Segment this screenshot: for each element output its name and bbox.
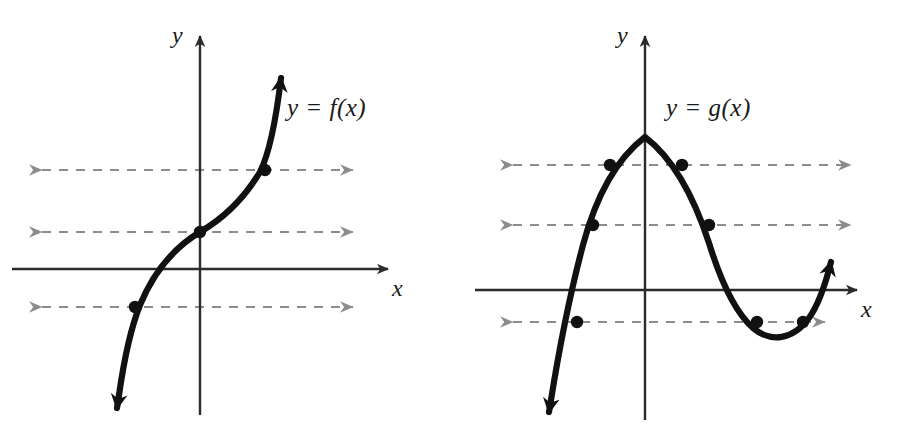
curve-label-f: y = f(x) xyxy=(287,94,366,122)
curve-f-down-arrow xyxy=(117,395,119,408)
intersection-point xyxy=(129,301,141,313)
x-axis-label-f: x xyxy=(392,275,403,302)
intersection-point xyxy=(797,316,809,328)
intersection-point xyxy=(194,226,206,238)
graph-panel-g: y = g(x) y x xyxy=(453,0,905,447)
graph-svg-f xyxy=(0,0,452,447)
intersection-point xyxy=(259,164,271,176)
curve-g xyxy=(551,137,831,400)
curve-label-g: y = g(x) xyxy=(666,94,751,122)
intersection-point xyxy=(571,316,583,328)
y-axis-label-f: y xyxy=(172,22,183,49)
intersection-point xyxy=(703,219,715,231)
intersection-point xyxy=(587,219,599,231)
intersection-point xyxy=(604,159,616,171)
y-axis-label-g: y xyxy=(617,22,628,49)
graph-svg-g xyxy=(453,0,905,447)
curve-g-down-arrow xyxy=(549,400,551,412)
graph-panel-f: y = f(x) y x xyxy=(0,0,452,447)
intersection-point xyxy=(751,316,763,328)
intersection-point xyxy=(676,159,688,171)
horizontal-test-lines-f xyxy=(42,170,353,307)
x-axis-label-g: x xyxy=(861,296,872,323)
horizontal-line-test-figure: y = f(x) y x xyxy=(0,0,905,447)
horizontal-test-lines-g xyxy=(513,165,851,322)
